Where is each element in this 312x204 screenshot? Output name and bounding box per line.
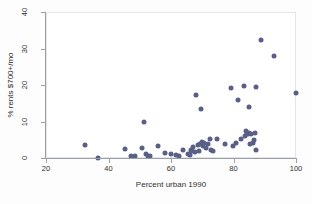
y-axis-line — [45, 12, 46, 159]
x-tick-label: 100 — [290, 164, 303, 173]
data-point — [214, 136, 219, 141]
data-point — [141, 120, 146, 125]
plot-data-area — [47, 13, 295, 157]
plot-frame — [46, 12, 296, 158]
x-tick-label: 80 — [229, 164, 237, 173]
x-tick-label: 60 — [167, 164, 175, 173]
data-point — [196, 148, 201, 153]
x-tick-label: 20 — [42, 164, 50, 173]
data-point — [234, 141, 239, 146]
y-tick-label: 0 — [20, 156, 29, 160]
x-axis-title: Percent urban 1990 — [46, 180, 296, 189]
x-tick-mark — [296, 159, 297, 163]
x-tick-mark — [109, 159, 110, 163]
data-point — [222, 142, 227, 147]
y-tick-label: 30 — [20, 44, 29, 52]
data-point — [236, 98, 241, 103]
y-tick-mark — [41, 12, 45, 13]
data-point — [122, 147, 127, 152]
data-point — [259, 38, 264, 43]
x-tick-mark — [234, 159, 235, 163]
data-point — [252, 131, 257, 136]
data-point — [238, 137, 243, 142]
y-tick-label: 20 — [20, 81, 29, 89]
data-point — [246, 105, 251, 110]
data-point — [294, 91, 299, 96]
data-point — [254, 84, 259, 89]
data-point — [83, 143, 88, 148]
data-point — [228, 85, 233, 90]
data-point — [198, 106, 203, 111]
y-tick-mark — [41, 85, 45, 86]
data-point — [193, 93, 198, 98]
y-tick-label: 40 — [20, 8, 29, 16]
data-point — [180, 147, 185, 152]
data-point — [241, 84, 246, 89]
data-point — [187, 152, 192, 157]
y-tick-mark — [41, 158, 45, 159]
data-point — [140, 145, 145, 150]
data-point — [156, 144, 161, 149]
x-tick-mark — [46, 159, 47, 163]
y-tick-mark — [41, 49, 45, 50]
x-tick-label: 40 — [104, 164, 112, 173]
data-point — [251, 138, 256, 143]
data-point — [207, 136, 212, 141]
data-point — [162, 151, 167, 156]
scatter-plot-figure: 010203040 20406080100 % rents $700+/mo P… — [0, 0, 312, 204]
x-tick-mark — [171, 159, 172, 163]
data-point — [271, 54, 276, 59]
data-point — [210, 148, 215, 153]
y-axis-title: % rents $700+/mo — [6, 52, 15, 117]
y-tick-mark — [41, 122, 45, 123]
y-tick-label: 10 — [20, 117, 29, 125]
data-point — [254, 148, 259, 153]
data-point — [205, 141, 210, 146]
